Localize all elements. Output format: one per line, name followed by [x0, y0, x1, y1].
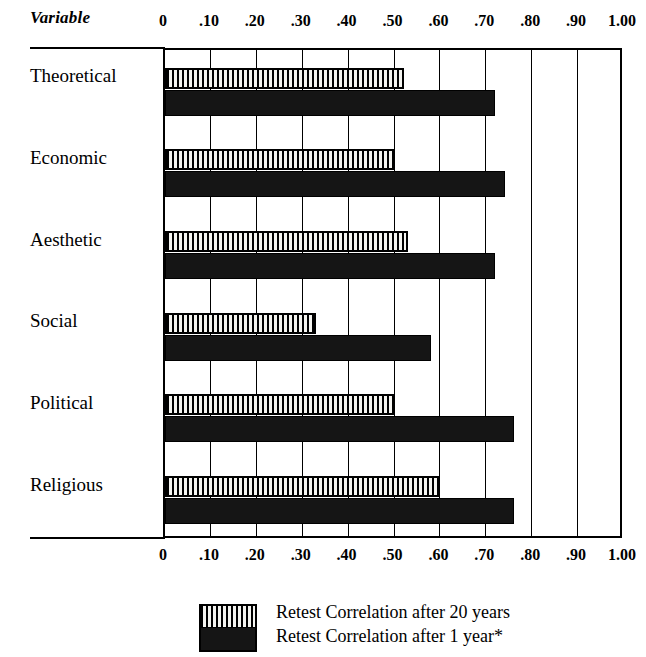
category-label-religious: Religious: [30, 474, 103, 496]
legend-item-label-0: Retest Correlation after 20 years: [276, 601, 510, 625]
bar-economic-retest-1-year: [165, 171, 505, 197]
x-axis-tick-label-7: .70: [474, 12, 494, 30]
y-axis-category-labels: TheoreticalEconomicAestheticSocialPoliti…: [0, 48, 160, 538]
category-label-political: Political: [30, 392, 93, 414]
x-axis-tick-label-1: .10: [199, 546, 219, 564]
x-axis-tick-label-3: .30: [291, 12, 311, 30]
chart-plot-area: [163, 48, 622, 538]
category-label-aesthetic: Aesthetic: [30, 229, 102, 251]
x-axis-tick-label-9: .90: [566, 12, 586, 30]
bar-aesthetic-retest-20-years: [165, 231, 408, 252]
x-axis-tick-label-5: .50: [383, 546, 403, 564]
legend-swatch-solid-icon: [201, 628, 255, 650]
bar-group-economic: [165, 132, 620, 214]
x-axis-tick-label-4: .40: [337, 546, 357, 564]
x-axis-labels-top: 0.10.20.30.40.50.60.70.80.901.00: [163, 12, 622, 34]
x-axis-tick-label-10: 1.00: [608, 12, 636, 30]
bar-political-retest-20-years: [165, 394, 395, 415]
bar-social-retest-1-year: [165, 335, 431, 361]
bar-group-aesthetic: [165, 213, 620, 295]
x-axis-tick-label-9: .90: [566, 546, 586, 564]
x-axis-tick-label-7: .70: [474, 546, 494, 564]
variable-column-header: Variable: [30, 8, 90, 28]
x-axis-tick-label-2: .20: [245, 12, 265, 30]
bar-group-religious: [165, 458, 620, 540]
legend-text-block: Retest Correlation after 20 years Retest…: [276, 601, 510, 649]
bar-economic-retest-20-years: [165, 149, 395, 170]
bar-group-theoretical: [165, 50, 620, 132]
bar-religious-retest-1-year: [165, 498, 514, 524]
x-axis-tick-label-0: 0: [159, 546, 167, 564]
x-axis-tick-label-2: .20: [245, 546, 265, 564]
legend-swatch: [199, 604, 257, 652]
legend-swatch-hatch-icon: [201, 606, 255, 628]
x-axis-tick-label-8: .80: [520, 546, 540, 564]
chart-legend: Retest Correlation after 20 years Retest…: [199, 604, 510, 652]
legend-item-label-1: Retest Correlation after 1 year*: [276, 625, 510, 649]
bar-theoretical-retest-20-years: [165, 68, 404, 89]
bar-social-retest-20-years: [165, 313, 316, 334]
x-axis-tick-label-6: .60: [428, 12, 448, 30]
category-label-economic: Economic: [30, 147, 107, 169]
x-axis-tick-label-6: .60: [428, 546, 448, 564]
bar-group-political: [165, 377, 620, 459]
bar-group-social: [165, 295, 620, 377]
x-axis-labels-bottom: 0.10.20.30.40.50.60.70.80.901.00: [163, 546, 622, 568]
x-axis-tick-label-4: .40: [337, 12, 357, 30]
x-axis-tick-label-5: .50: [383, 12, 403, 30]
bar-theoretical-retest-1-year: [165, 90, 495, 116]
bar-aesthetic-retest-1-year: [165, 253, 495, 279]
x-axis-tick-label-8: .80: [520, 12, 540, 30]
x-axis-tick-label-10: 1.00: [608, 546, 636, 564]
category-label-social: Social: [30, 310, 78, 332]
x-axis-tick-label-1: .10: [199, 12, 219, 30]
bar-political-retest-1-year: [165, 416, 514, 442]
x-axis-tick-label-0: 0: [159, 12, 167, 30]
bar-religious-retest-20-years: [165, 476, 440, 497]
category-label-theoretical: Theoretical: [30, 65, 117, 87]
x-axis-tick-label-3: .30: [291, 546, 311, 564]
